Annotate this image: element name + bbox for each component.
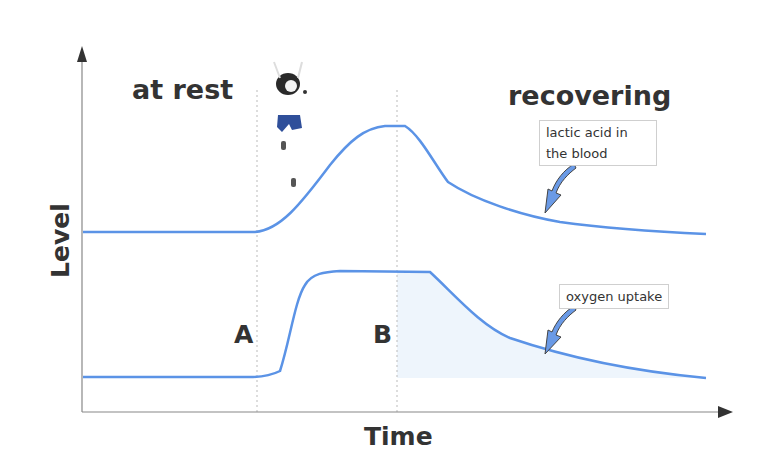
callout-lactic-line1: lactic acid in xyxy=(546,122,650,143)
chart-canvas xyxy=(0,0,768,475)
callout-lactic-acid: lactic acid in the blood xyxy=(539,120,657,166)
x-axis-arrow-icon xyxy=(718,406,733,418)
lactic-callout-arrow-icon xyxy=(545,164,576,213)
callout-oxygen-uptake: oxygen uptake xyxy=(559,284,669,309)
y-axis-label: Level xyxy=(46,203,75,278)
region-label-at-rest: at rest xyxy=(132,74,233,105)
x-axis-label: Time xyxy=(364,422,433,451)
region-label-recovering: recovering xyxy=(508,80,671,111)
running-person-icon xyxy=(274,62,307,187)
callout-oxygen-text: oxygen uptake xyxy=(566,286,662,307)
marker-b-label: B xyxy=(373,320,392,349)
oxygen-callout-arrow-icon xyxy=(545,306,576,354)
marker-a-label: A xyxy=(234,320,253,349)
y-axis-arrow-icon xyxy=(77,46,87,62)
callout-lactic-line2: the blood xyxy=(546,143,650,164)
